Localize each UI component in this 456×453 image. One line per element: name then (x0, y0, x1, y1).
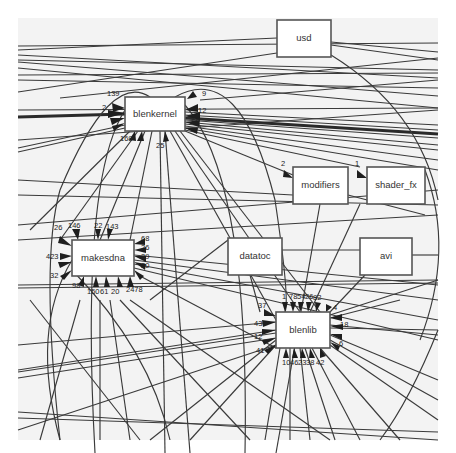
node-label: datatoc (239, 250, 270, 261)
edge-label: 150 (87, 287, 100, 296)
edge-label: 41 (256, 346, 264, 355)
edge-label: 32 (50, 271, 58, 280)
edge-label: 423 (46, 252, 59, 261)
node-label: avi (380, 250, 392, 261)
edge-label: 68 (141, 234, 149, 243)
edge-label: 146 (68, 221, 81, 230)
edges-layer: 139 2 9 12 168 25 2 1 26 146 22 143 68 2… (0, 0, 456, 453)
node-makesdna[interactable]: makesdna (72, 240, 134, 276)
edge-label: 9 (202, 89, 206, 98)
edge-label: 20 (111, 287, 119, 296)
node-label: blenkernel (133, 108, 177, 119)
edge-label: 1 (282, 292, 286, 301)
node-label: makesdna (81, 252, 126, 263)
edge-label: 61 (100, 287, 108, 296)
edge-label: 12 (254, 332, 262, 341)
edge-label: 20 (141, 261, 149, 270)
node-modifiers[interactable]: modifiers (293, 167, 348, 204)
edge-label: 26 (54, 223, 62, 232)
graph-canvas: 139 2 9 12 168 25 2 1 26 146 22 143 68 2… (0, 0, 456, 453)
edge-label: 4 (333, 303, 337, 312)
edge-label: 143 (106, 222, 119, 231)
node-label: modifiers (301, 179, 340, 190)
edge-label: 38 (306, 358, 314, 367)
edge-label: 26 (141, 243, 149, 252)
edge-label: 37 (258, 301, 266, 310)
node-blenlib[interactable]: blenlib (276, 312, 330, 348)
edge-label: 12 (198, 106, 206, 115)
edge-label: 82 (313, 293, 321, 302)
edge-label: 42 (316, 358, 324, 367)
node-label: shader_fx (375, 179, 417, 190)
edge-label: 98 (72, 281, 80, 290)
edge-label: 168 (120, 134, 133, 143)
edge-label: 2 (281, 159, 285, 168)
edge-label: 139 (107, 89, 120, 98)
edge-label: 2478 (126, 285, 143, 294)
node-blenkernel[interactable]: blenkernel (125, 97, 185, 131)
node-avi[interactable]: avi (360, 238, 412, 275)
edge-label: 2 (102, 103, 106, 112)
edge-label: 1 (355, 159, 359, 168)
node-shader-fx[interactable]: shader_fx (367, 167, 425, 204)
node-datatoc[interactable]: datatoc (228, 238, 282, 275)
edge-label: 43 (254, 319, 262, 328)
node-label: usd (296, 32, 311, 43)
edge-label: 39 (141, 252, 149, 261)
edge-label: 6 (339, 339, 343, 348)
node-label: blenlib (289, 324, 316, 335)
node-usd[interactable]: usd (277, 20, 331, 57)
edge-label: 18 (340, 320, 348, 329)
edge-label: 22 (94, 221, 102, 230)
edge-label: 25 (156, 141, 164, 150)
